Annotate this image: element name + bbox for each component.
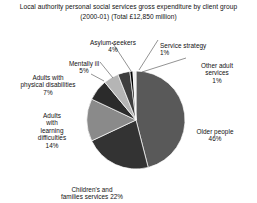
slice-label-other-adult-services-name: Other adult services [201,62,233,77]
slice-label-learning-difficulties-name: Adults with learning difficulties [38,112,66,142]
slice-label-children-families-name: Children's and families services 22% [61,186,123,201]
slice-label-children-families: Children's and families services 22% [44,178,140,201]
slice-label-learning-difficulties: Adults with learning difficulties 14% [28,104,76,157]
slice-label-older-people: Older people 46% [188,120,242,150]
pie-chart-figure: Local authority personal social services… [0,0,257,203]
slice-label-other-adult-services-pct: 1% [188,77,246,85]
pie-slices [87,71,185,169]
slice-label-asylum-seekers-name: Asylum-seekers [90,39,136,46]
slice-label-learning-difficulties-pct: 14% [28,142,76,150]
slice-label-physical-disabilities-name: Adults with physical disabilities [21,74,76,89]
slice-label-older-people-name: Older people [197,128,234,135]
slice-label-older-people-pct: 46% [188,135,242,143]
slice-label-physical-disabilities-pct: 7% [6,89,90,97]
slice-label-physical-disabilities: Adults with physical disabilities 7% [6,66,90,104]
slice-label-other-adult-services: Other adult services 1% [188,54,246,92]
slice-label-service-strategy-name: Service strategy [160,42,206,49]
